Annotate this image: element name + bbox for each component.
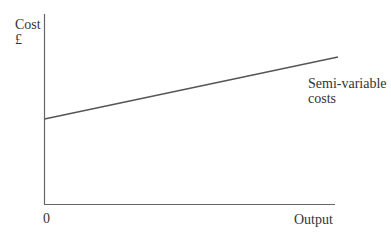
origin-label: 0 xyxy=(43,211,50,227)
x-axis-label: Output xyxy=(294,212,333,228)
semi-variable-cost-line xyxy=(45,57,339,119)
series-label-line1: Semi-variable xyxy=(308,76,387,92)
chart-canvas xyxy=(0,0,391,238)
series-label-line2: costs xyxy=(308,91,336,107)
y-axis-label-line1: Cost xyxy=(15,17,41,33)
y-axis-label-line2: £ xyxy=(15,32,22,48)
